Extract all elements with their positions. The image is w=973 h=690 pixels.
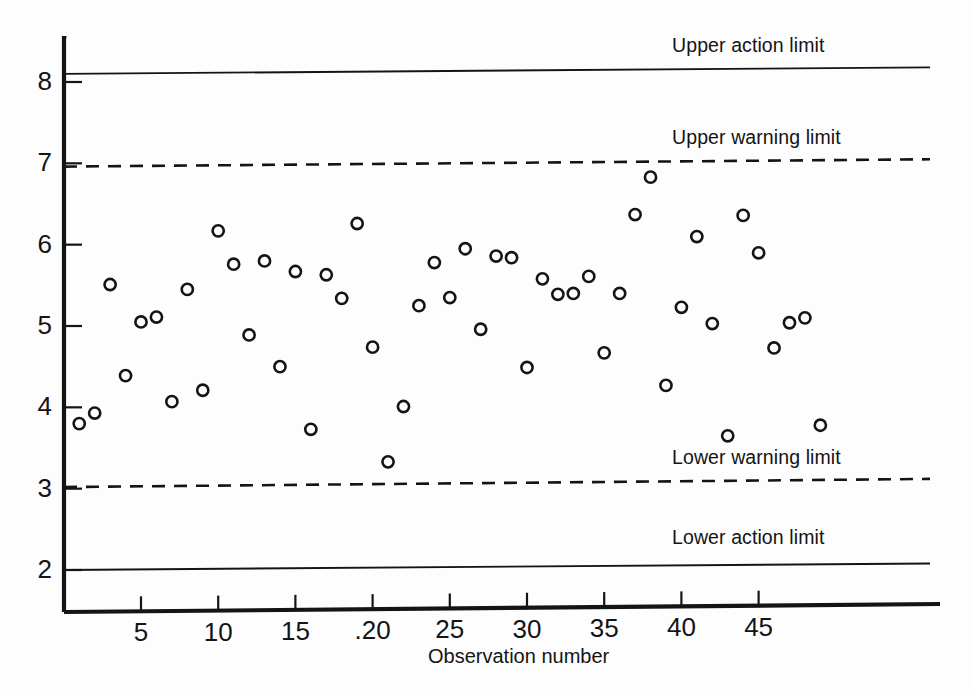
x-tick-label-5: 5	[111, 617, 171, 648]
x-axis-line	[64, 604, 940, 612]
x-tick-label-40: 40	[651, 612, 711, 643]
lower-warning-limit-label: Lower warning limit	[672, 446, 841, 469]
data-point	[243, 329, 254, 340]
data-point	[629, 209, 640, 220]
upper-action-limit-label: Upper action limit	[672, 34, 824, 57]
x-tick-label-45: 45	[729, 612, 789, 643]
data-point	[444, 292, 455, 303]
data-point	[784, 317, 795, 328]
data-point	[676, 302, 687, 313]
data-point	[197, 385, 208, 396]
chart-canvas	[0, 0, 973, 690]
data-point	[552, 289, 563, 300]
upper-action-limit	[64, 67, 930, 74]
data-point	[274, 361, 285, 372]
data-point	[74, 418, 85, 429]
x-tick-label-15: 15	[265, 616, 325, 647]
data-point	[799, 312, 810, 323]
data-point	[506, 252, 517, 263]
x-tick-label-25: 25	[420, 614, 480, 645]
data-point	[491, 250, 502, 261]
data-point	[660, 380, 671, 391]
upper-warning-limit-label: Upper warning limit	[672, 126, 841, 149]
y-tick-label-3: 3	[22, 473, 52, 504]
data-point	[213, 225, 224, 236]
data-point	[722, 430, 733, 441]
data-point	[228, 259, 239, 270]
y-tick-label-4: 4	[22, 391, 52, 422]
y-tick-label-5: 5	[22, 310, 52, 341]
y-tick-label-2: 2	[22, 554, 52, 585]
data-point	[753, 247, 764, 258]
data-point	[105, 279, 116, 290]
data-point	[738, 210, 749, 221]
data-point	[182, 284, 193, 295]
x-tick-label-35: 35	[574, 613, 634, 644]
data-point	[367, 342, 378, 353]
data-point	[259, 255, 270, 266]
data-point	[583, 271, 594, 282]
axis-ticks	[64, 82, 759, 611]
data-point	[413, 300, 424, 311]
data-point	[120, 370, 131, 381]
data-point	[645, 172, 656, 183]
y-tick-label-8: 8	[22, 66, 52, 97]
lower-action-limit-label: Lower action limit	[672, 526, 824, 549]
data-point	[599, 347, 610, 358]
y-tick-label-6: 6	[22, 229, 52, 260]
data-point	[429, 257, 440, 268]
data-point	[521, 362, 532, 373]
data-point	[815, 420, 826, 431]
data-point	[321, 269, 332, 280]
y-tick-label-7: 7	[22, 147, 52, 178]
data-point	[475, 324, 486, 335]
data-point	[89, 407, 100, 418]
data-points	[74, 172, 826, 468]
data-point	[305, 424, 316, 435]
control-chart: 2345678 51015.202530354045 Upper action …	[0, 0, 973, 690]
data-point	[768, 342, 779, 353]
lower-action-limit	[64, 563, 930, 570]
upper-warning-limit	[64, 159, 930, 166]
x-tick-label-20: .20	[343, 615, 403, 646]
data-point	[352, 218, 363, 229]
x-tick-label-30: 30	[497, 614, 557, 645]
data-point	[151, 311, 162, 322]
data-point	[135, 316, 146, 327]
data-point	[707, 318, 718, 329]
data-point	[614, 288, 625, 299]
data-point	[166, 396, 177, 407]
lower-warning-limit	[64, 479, 930, 487]
x-axis-title: Observation number	[428, 645, 609, 668]
data-point	[568, 288, 579, 299]
data-point	[691, 231, 702, 242]
data-point	[537, 273, 548, 284]
data-point	[460, 243, 471, 254]
x-tick-label-10: 10	[188, 617, 248, 648]
data-point	[398, 401, 409, 412]
data-point	[336, 293, 347, 304]
data-point	[382, 456, 393, 467]
data-point	[290, 266, 301, 277]
